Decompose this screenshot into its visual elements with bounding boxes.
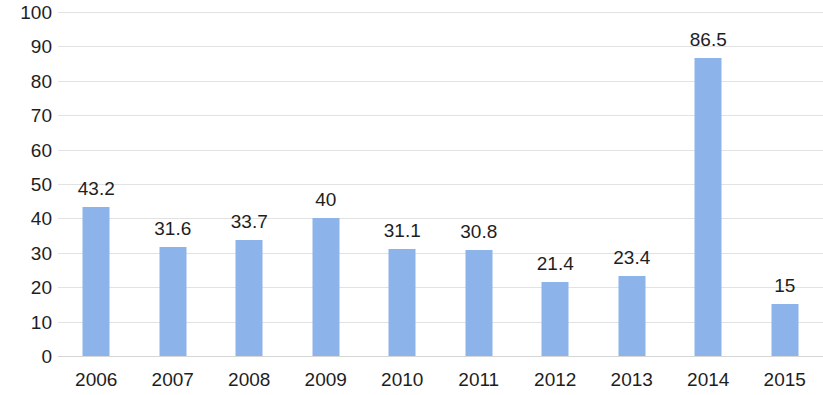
plot-area: 010203040506070809010043.231.633.74031.1… <box>58 12 823 356</box>
bar-2013[interactable] <box>618 276 645 356</box>
bar-2014[interactable] <box>695 58 722 356</box>
bar-2008[interactable] <box>236 240 263 356</box>
bar-value-label: 33.7 <box>231 212 268 231</box>
x-axis-tick-label-2008: 2008 <box>211 370 288 389</box>
bar-value-label: 43.2 <box>78 179 115 198</box>
x-axis-tick-label-2011: 2011 <box>441 370 518 389</box>
bar-group: 31.1 <box>364 12 441 356</box>
x-axis-tick-label-2006: 2006 <box>58 370 135 389</box>
bar-2015[interactable] <box>771 304 798 356</box>
bar-value-label: 31.1 <box>384 221 421 240</box>
y-axis-tick-label: 40 <box>0 209 52 228</box>
y-axis-tick-label: 0 <box>0 347 52 366</box>
x-axis-tick-label-2012: 2012 <box>517 370 594 389</box>
x-axis-tick-label-2009: 2009 <box>288 370 365 389</box>
y-axis-tick-label: 20 <box>0 278 52 297</box>
y-axis-tick-label: 80 <box>0 71 52 90</box>
bar-value-label: 31.6 <box>154 219 191 238</box>
y-axis-tick-label: 50 <box>0 175 52 194</box>
bar-group: 15 <box>747 12 823 356</box>
bar-group: 43.2 <box>58 12 135 356</box>
x-axis-tick-label-2013: 2013 <box>594 370 671 389</box>
bar-value-label: 23.4 <box>613 248 650 267</box>
bar-group: 33.7 <box>211 12 288 356</box>
bar-value-label: 86.5 <box>690 30 727 49</box>
x-axis-tick-label-2007: 2007 <box>135 370 212 389</box>
bar-group: 23.4 <box>594 12 671 356</box>
bar-value-label: 15 <box>774 276 795 295</box>
bar-2011[interactable] <box>465 250 492 356</box>
x-axis: 2006200720082009201020112012201320142015 <box>58 362 823 395</box>
bar-value-label: 40 <box>315 190 336 209</box>
bar-value-label: 30.8 <box>460 222 497 241</box>
bar-group: 21.4 <box>517 12 594 356</box>
bar-2007[interactable] <box>159 247 186 356</box>
bar-chart: 010203040506070809010043.231.633.74031.1… <box>0 0 823 395</box>
bar-group: 86.5 <box>670 12 747 356</box>
bar-group: 30.8 <box>441 12 518 356</box>
y-axis-tick-label: 70 <box>0 106 52 125</box>
y-axis-tick-label: 60 <box>0 140 52 159</box>
x-axis-tick-label-2014: 2014 <box>670 370 747 389</box>
bar-2009[interactable] <box>312 218 339 356</box>
gridline-0 <box>58 356 823 357</box>
bar-group: 31.6 <box>135 12 212 356</box>
bar-2010[interactable] <box>389 249 416 356</box>
bar-2012[interactable] <box>542 282 569 356</box>
y-axis-tick-label: 10 <box>0 312 52 331</box>
x-axis-tick-label-2010: 2010 <box>364 370 441 389</box>
x-axis-tick-label-2015: 2015 <box>747 370 823 389</box>
bar-2006[interactable] <box>83 207 110 356</box>
bar-group: 40 <box>288 12 365 356</box>
y-axis-tick-label: 90 <box>0 37 52 56</box>
y-axis-tick-label: 100 <box>0 3 52 22</box>
bar-value-label: 21.4 <box>537 254 574 273</box>
y-axis-tick-label: 30 <box>0 243 52 262</box>
